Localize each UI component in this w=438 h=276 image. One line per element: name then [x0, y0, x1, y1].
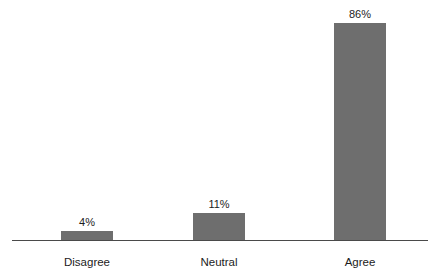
bar-chart: 4% Disagree 11% Neutral 86% Agree — [0, 0, 438, 276]
category-axis-line — [12, 240, 428, 241]
bar-value-label-agree: 86% — [320, 8, 400, 20]
bar-value-label-neutral: 11% — [179, 198, 259, 210]
category-label-disagree: Disagree — [37, 256, 137, 269]
category-label-neutral: Neutral — [169, 256, 269, 269]
bar-value-label-disagree: 4% — [47, 216, 127, 228]
bar-neutral[interactable] — [193, 213, 245, 241]
plot-area: 4% Disagree 11% Neutral 86% Agree — [0, 0, 438, 276]
bar-agree[interactable] — [334, 23, 386, 241]
category-label-agree: Agree — [310, 256, 410, 269]
